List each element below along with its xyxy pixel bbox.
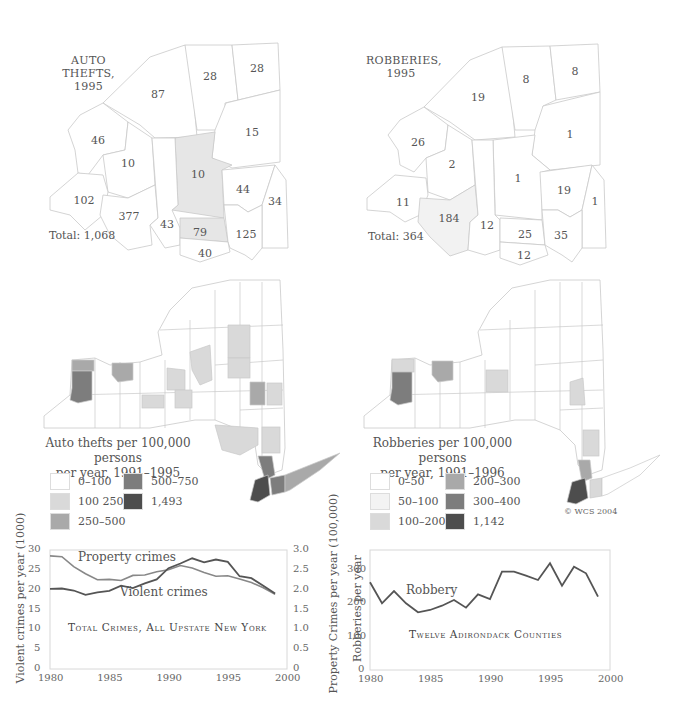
legend-item: 1,493 xyxy=(123,491,199,511)
county-value: 44 xyxy=(236,183,250,196)
county-value: 46 xyxy=(91,134,105,147)
legend-item: 200–300 xyxy=(445,471,521,491)
county-shaded xyxy=(590,478,602,498)
county-value: 10 xyxy=(121,157,135,170)
tick-label: 20 xyxy=(28,583,41,594)
ny-robbery-rate-map: Robberies per 100,000 persons per year, … xyxy=(350,270,694,530)
tick-label: 2000 xyxy=(598,673,623,684)
map-title-line1: AUTO THEFTS, xyxy=(46,54,131,80)
auto-thefts-1995-map: 87 28 28 46 10 15 10 44 34 102 377 43 79… xyxy=(0,0,350,270)
county-value: 28 xyxy=(250,62,264,75)
county-shaded xyxy=(167,368,185,390)
county-shaded xyxy=(285,453,340,492)
county-value: 12 xyxy=(517,249,531,262)
tick-label: 1980 xyxy=(38,672,63,683)
legend-item: 50–100 xyxy=(370,491,446,511)
map-total: Total: 1,068 xyxy=(49,229,115,242)
tick-label: 30 xyxy=(28,543,41,554)
robbery-plot xyxy=(350,520,694,719)
legend-swatch xyxy=(370,473,390,490)
chart-title: Total Crimes, All Upstate New York xyxy=(68,621,267,633)
county-shaded xyxy=(112,363,133,382)
legend-swatch xyxy=(123,473,143,490)
legend-swatch xyxy=(445,473,465,490)
robbery-line xyxy=(370,563,598,612)
county-shaded xyxy=(262,427,280,453)
legend-swatch xyxy=(370,493,390,510)
tick-label: 25 xyxy=(28,563,41,574)
y-axis-label: Robberies per year xyxy=(351,554,364,664)
county-value: 26 xyxy=(411,136,425,149)
tick-label: 1.5 xyxy=(293,603,309,614)
tick-label: 1985 xyxy=(97,672,122,683)
legend-swatch xyxy=(445,493,465,510)
tick-label: 1985 xyxy=(418,673,443,684)
tick-label: 2.5 xyxy=(293,563,309,574)
left-y-axis-label: Violent crimes per year (1000) xyxy=(14,534,27,684)
county-shaded xyxy=(486,370,508,392)
county-shaded xyxy=(432,361,453,382)
legend-item: 300–400 xyxy=(445,491,521,511)
county-shaded xyxy=(250,382,265,405)
county-shaded xyxy=(583,430,599,456)
county-value: 1 xyxy=(592,195,599,208)
tick-label: 1990 xyxy=(478,673,503,684)
map-title: ROBBERIES, 1995 xyxy=(366,54,436,80)
county-value: 10 xyxy=(191,168,205,181)
county-value: 87 xyxy=(151,88,165,101)
county-shaded xyxy=(228,325,250,358)
county-value: 1 xyxy=(567,128,574,141)
county-value: 43 xyxy=(160,218,174,231)
county-value: 1 xyxy=(515,172,522,185)
legend-label: 300–400 xyxy=(473,495,521,508)
copyright-credit: © WCS 2004 xyxy=(564,507,617,516)
county-value: 11 xyxy=(396,196,410,209)
legend-label: 100 250 xyxy=(78,495,124,508)
chart-title: Twelve Adirondack Counties xyxy=(409,628,562,640)
legend-label: 50–100 xyxy=(398,495,439,508)
county-shaded xyxy=(228,358,250,378)
county-shaded xyxy=(72,360,94,371)
tick-label: 0.5 xyxy=(293,642,309,653)
ny-auto-theft-rate-map: Auto thefts per 100,000 persons per year… xyxy=(0,270,350,530)
legend-item: 100 250 xyxy=(50,491,126,511)
map-total: Total: 364 xyxy=(368,230,424,243)
county-shaded xyxy=(250,475,270,502)
county-value: 2 xyxy=(449,158,456,171)
map-title-line2: 1995 xyxy=(366,67,436,80)
county-shaded xyxy=(175,390,192,408)
legend-label: 0–100 xyxy=(78,475,112,488)
tick-label: 15 xyxy=(28,603,41,614)
legend-label: 500–750 xyxy=(151,475,199,488)
county-shaded xyxy=(392,359,414,372)
county-shaded xyxy=(270,475,285,495)
county-value: 102 xyxy=(74,194,95,207)
county-value: 125 xyxy=(236,228,257,241)
legend-col-2: 500–750 1,493 xyxy=(123,471,199,511)
county-value: 8 xyxy=(572,65,579,78)
county-value: 34 xyxy=(268,195,282,208)
county-shaded xyxy=(215,425,258,455)
map-title: AUTO THEFTS, 1995 xyxy=(46,54,131,93)
county-value: 19 xyxy=(471,91,485,104)
tick-label: 1995 xyxy=(216,672,241,683)
adirondack-robbery-chart: 0100200300 19801985199019952000 Robberie… xyxy=(350,520,694,719)
map-title-line2: 1995 xyxy=(46,80,131,93)
tick-label: 2000 xyxy=(275,672,300,683)
violent-crimes-label: Violent crimes xyxy=(120,585,208,599)
tick-label: 2.0 xyxy=(293,583,309,594)
county-value: 15 xyxy=(245,126,259,139)
legend-item: 500–750 xyxy=(123,471,199,491)
county-value: 8 xyxy=(523,73,530,86)
county-value: 12 xyxy=(480,219,494,232)
county-value: 40 xyxy=(198,247,212,260)
tick-label: 10 xyxy=(28,622,41,633)
robberies-1995-map: 19 8 8 26 2 1 1 19 1 11 184 12 25 35 12 … xyxy=(350,0,694,270)
county-value: 184 xyxy=(439,212,460,225)
county-value: 28 xyxy=(203,70,217,83)
county-value: 19 xyxy=(557,184,571,197)
county-value: 79 xyxy=(193,226,207,239)
county-shaded xyxy=(70,371,92,403)
legend-label: 200–300 xyxy=(473,475,521,488)
legend-title-line1: Auto thefts per 100,000 persons xyxy=(38,436,198,466)
